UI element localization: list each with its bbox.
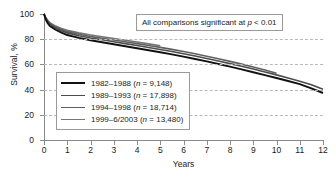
x-tick-label-12: 12 <box>313 146 333 155</box>
x-axis-label: Years <box>44 160 323 169</box>
significance-annotation: All comparisons significant at p < 0.01 <box>136 14 283 31</box>
survival-chart-figure: Survival, % 020406080100 012345678910111… <box>0 0 336 177</box>
x-tick-label-10: 10 <box>267 146 287 155</box>
y-tick-label-100: 100 <box>8 10 34 19</box>
legend-row-1989–1993[interactable]: 1989–1993 (n = 17,898) <box>61 89 183 101</box>
legend-count-text: = 17,898) <box>140 91 176 100</box>
y-tick-label-0: 0 <box>8 136 34 145</box>
x-tick-label-3: 3 <box>104 146 124 155</box>
x-tick-label-1: 1 <box>57 146 77 155</box>
legend-swatch-1999–6/2003 <box>61 119 85 120</box>
gridline-y-60 <box>44 64 323 65</box>
legend-label-1989–1993: 1989–1993 (n = 17,898) <box>91 91 177 100</box>
legend-count-text: = 13,480) <box>147 115 183 124</box>
legend-label-1999–6/2003: 1999–6/2003 (n = 13,480) <box>91 115 183 124</box>
legend-period-text: 1999–6/2003 ( <box>91 115 143 124</box>
x-tick-label-4: 4 <box>127 146 147 155</box>
legend-label-1994–1998: 1994–1998 (n = 18,714) <box>91 103 177 112</box>
x-tick-label-9: 9 <box>243 146 263 155</box>
legend-count-text: = 18,714) <box>140 103 176 112</box>
x-tick-label-0: 0 <box>34 146 54 155</box>
legend-row-1999–6/2003[interactable]: 1999–6/2003 (n = 13,480) <box>61 113 183 125</box>
y-tick-label-60: 60 <box>8 60 34 69</box>
legend-period-text: 1994–1998 ( <box>91 103 136 112</box>
x-tick-label-7: 7 <box>197 146 217 155</box>
legend-label-1982–1988: 1982–1988 (n = 9,148) <box>91 79 172 88</box>
legend-period-text: 1982–1988 ( <box>91 79 136 88</box>
chart-legend: 1982–1988 (n = 9,148)1989–1993 (n = 17,8… <box>56 72 190 130</box>
legend-swatch-1982–1988 <box>61 82 85 84</box>
legend-swatch-1989–1993 <box>61 95 85 96</box>
y-tick-label-20: 20 <box>8 111 34 120</box>
x-tick-label-8: 8 <box>220 146 240 155</box>
y-tick-label-80: 80 <box>8 35 34 44</box>
annotation-prefix-text: All comparisons significant at <box>142 18 247 27</box>
x-tick-label-6: 6 <box>174 146 194 155</box>
legend-period-text: 1989–1993 ( <box>91 91 136 100</box>
gridline-y-80 <box>44 39 323 40</box>
annotation-suffix-text: < 0.01 <box>252 18 277 27</box>
x-tick-label-2: 2 <box>81 146 101 155</box>
y-tick-label-40: 40 <box>8 86 34 95</box>
legend-swatch-1994–1998 <box>61 107 85 108</box>
legend-row-1994–1998[interactable]: 1994–1998 (n = 18,714) <box>61 101 183 113</box>
legend-row-1982–1988[interactable]: 1982–1988 (n = 9,148) <box>61 77 183 89</box>
legend-count-text: = 9,148) <box>140 79 172 88</box>
x-tick-label-11: 11 <box>290 146 310 155</box>
x-tick-label-5: 5 <box>150 146 170 155</box>
